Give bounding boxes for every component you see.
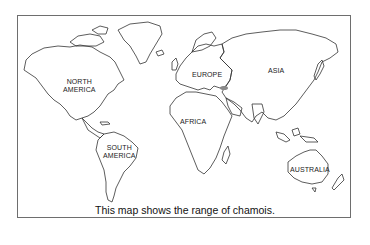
chamois-range-highlight xyxy=(220,86,228,90)
label-line: AMERICA xyxy=(63,86,96,94)
label-europe: EUROPE xyxy=(192,71,222,79)
africa-outline xyxy=(170,92,232,174)
label-asia: ASIA xyxy=(268,67,284,75)
label-north-america: NORTH AMERICA xyxy=(63,78,96,94)
asia-outline xyxy=(220,30,338,122)
label-line: AMERICA xyxy=(103,152,136,160)
label-africa: AFRICA xyxy=(180,118,206,126)
label-south-america: SOUTH AMERICA xyxy=(103,144,136,160)
label-line: SOUTH xyxy=(103,144,136,152)
label-australia: AUSTRALIA xyxy=(290,166,330,174)
label-line: NORTH xyxy=(63,78,96,86)
greenland-outline xyxy=(118,22,162,64)
map-caption: This map shows the range of chamois. xyxy=(0,204,370,216)
south-america-outline xyxy=(96,132,138,202)
